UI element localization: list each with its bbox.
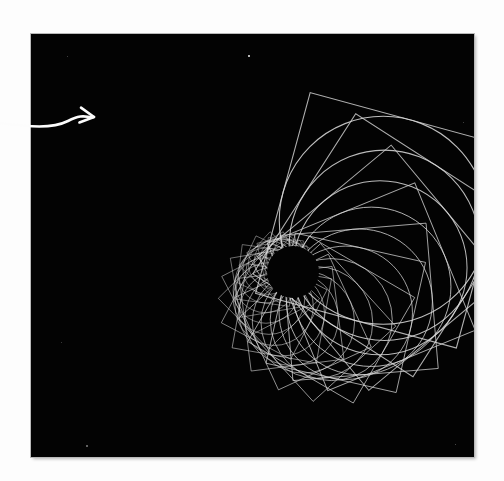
page-background	[0, 0, 504, 481]
spiral-circle	[289, 150, 474, 340]
spiral-center-void	[267, 246, 319, 298]
spiral-shape-group	[218, 93, 474, 403]
spiral-square	[256, 93, 474, 348]
generative-art-canvas[interactable]	[31, 34, 474, 457]
spiral-artwork-svg	[31, 34, 474, 457]
spiral-circle	[279, 116, 474, 324]
